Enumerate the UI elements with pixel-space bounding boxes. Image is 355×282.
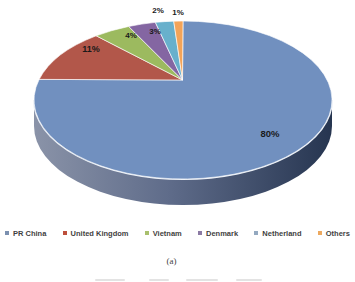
slice-label-netherland: 2%: [152, 7, 164, 15]
cropped-caption-fragment: [236, 279, 262, 281]
subfigure-caption: (a): [0, 256, 343, 266]
legend-label: Netherland: [262, 229, 301, 238]
cropped-caption-fragment: [186, 279, 218, 281]
slice-label-united-kingdom: 11%: [82, 45, 100, 54]
chart-legend: PR ChinaUnited KingdomVietnamDenmarkNeth…: [0, 226, 355, 240]
slice-label-pr-china: 80%: [260, 129, 279, 139]
legend-item-denmark: Denmark: [198, 229, 238, 238]
cropped-caption-fragment: [95, 279, 125, 281]
legend-item-united-kingdom: United Kingdom: [63, 229, 129, 238]
legend-marker-pr-china: [5, 231, 9, 235]
legend-label: Denmark: [206, 229, 238, 238]
legend-marker-united-kingdom: [63, 231, 67, 235]
cropped-caption-fragment: [149, 279, 169, 281]
legend-marker-vietnam: [145, 231, 149, 235]
legend-item-others: Others: [318, 229, 350, 238]
legend-item-pr-china: PR China: [5, 229, 46, 238]
legend-label: Vietnam: [153, 229, 182, 238]
legend-item-netherland: Netherland: [254, 229, 301, 238]
slice-label-vietnam: 4%: [125, 32, 137, 40]
legend-label: Others: [326, 229, 350, 238]
legend-marker-denmark: [198, 231, 202, 235]
legend-marker-netherland: [254, 231, 258, 235]
legend-label: United Kingdom: [71, 229, 129, 238]
slice-label-denmark: 3%: [149, 28, 161, 36]
figure-panel: 80%11%4%3%2%1% PR ChinaUnited KingdomVie…: [0, 0, 355, 282]
legend-label: PR China: [13, 229, 46, 238]
legend-item-vietnam: Vietnam: [145, 229, 182, 238]
slice-label-others: 1%: [172, 9, 184, 17]
legend-marker-others: [318, 231, 322, 235]
pie-chart: [0, 0, 355, 222]
